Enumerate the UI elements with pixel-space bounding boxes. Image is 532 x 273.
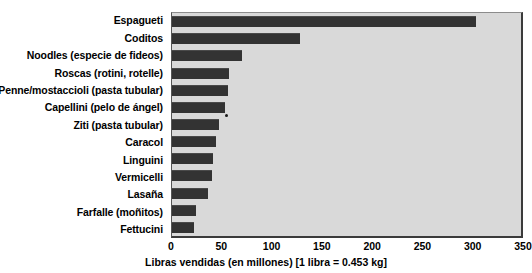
bar — [172, 33, 300, 44]
bar — [172, 136, 216, 147]
bar-row — [172, 167, 521, 184]
bar-row — [172, 202, 521, 219]
bar-row — [172, 219, 521, 236]
category-axis-labels: Espagueti Coditos Noodles (especie de fi… — [0, 12, 167, 238]
bar — [172, 222, 194, 233]
x-tick-label: 250 — [414, 240, 432, 252]
bar — [172, 170, 212, 181]
category-label: Ziti (pasta tubular) — [0, 116, 167, 133]
category-label: Fettucini — [0, 221, 167, 238]
x-axis-title: Libras vendidas (en millones) [1 libra =… — [0, 256, 532, 268]
bar-row — [172, 133, 521, 150]
bar-row — [172, 82, 521, 99]
x-tick-label: 150 — [313, 240, 331, 252]
bar — [172, 119, 219, 130]
bar-chart: Espagueti Coditos Noodles (especie de fi… — [0, 0, 532, 273]
bar-row — [172, 185, 521, 202]
bar-row — [172, 116, 521, 133]
bar-row — [172, 13, 521, 30]
category-label: Penne/mostaccioli (pasta tubular) — [0, 82, 167, 99]
category-label: Lasaña — [0, 186, 167, 203]
x-tick-label: 350 — [514, 240, 532, 252]
bar-row — [172, 47, 521, 64]
category-label: Capellini (pelo de ángel) — [0, 99, 167, 116]
bar — [172, 102, 225, 113]
category-label: Farfalle (moñitos) — [0, 203, 167, 220]
bar — [172, 16, 476, 27]
bar — [172, 205, 196, 216]
category-label: Roscas (rotini, rotelle) — [0, 64, 167, 81]
bar-row — [172, 99, 521, 116]
category-label: Vermicelli — [0, 169, 167, 186]
plot-area — [171, 12, 523, 238]
x-tick-label: 300 — [464, 240, 482, 252]
category-label: Caracol — [0, 134, 167, 151]
category-label: Noodles (especie de fideos) — [0, 47, 167, 64]
bar-row — [172, 150, 521, 167]
bar-row — [172, 30, 521, 47]
category-label: Linguini — [0, 151, 167, 168]
x-tick-label: 50 — [215, 240, 227, 252]
ink-speck — [225, 114, 228, 117]
bar — [172, 85, 228, 96]
bar — [172, 153, 213, 164]
category-label: Coditos — [0, 29, 167, 46]
x-tick-label: 100 — [263, 240, 281, 252]
bar — [172, 50, 242, 61]
x-tick-label: 0 — [168, 240, 174, 252]
bars-container — [172, 13, 521, 236]
bar — [172, 188, 208, 199]
x-axis-ticks: 050100150200250300350 — [171, 240, 523, 254]
bar — [172, 68, 229, 79]
bar-row — [172, 64, 521, 81]
x-tick-label: 200 — [363, 240, 381, 252]
category-label: Espagueti — [0, 12, 167, 29]
